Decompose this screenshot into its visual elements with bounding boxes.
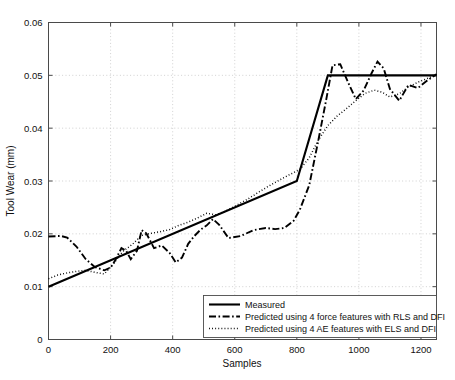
figure-container: 00.010.020.030.040.050.06 02004006008001… bbox=[0, 0, 455, 380]
y-tick-label-0: 0 bbox=[37, 334, 42, 345]
x-tick-label-3: 600 bbox=[227, 344, 243, 355]
y-tick-labels: 00.010.020.030.040.050.06 bbox=[24, 17, 43, 345]
y-tick-label-3: 0.03 bbox=[24, 176, 43, 187]
x-tick-labels: 020040060080010001200 bbox=[46, 344, 432, 355]
series-line-ae bbox=[49, 74, 437, 278]
y-tick-label-2: 0.02 bbox=[24, 228, 43, 239]
y-tick-label-6: 0.06 bbox=[24, 17, 43, 28]
legend-label-2: Predicted using 4 AE features with ELS a… bbox=[245, 324, 436, 334]
x-tick-label-2: 400 bbox=[165, 344, 181, 355]
x-tick-label-0: 0 bbox=[46, 344, 51, 355]
legend-label-1: Predicted using 4 force features with RL… bbox=[245, 312, 445, 322]
gridlines bbox=[49, 23, 437, 340]
y-tick-label-5: 0.05 bbox=[24, 70, 43, 81]
chart-plot: 00.010.020.030.040.050.06 02004006008001… bbox=[0, 0, 455, 380]
x-tick-label-6: 1200 bbox=[410, 344, 431, 355]
series-group bbox=[49, 62, 437, 287]
y-axis-title: Tool Wear (mm) bbox=[5, 146, 16, 217]
x-tick-label-4: 800 bbox=[289, 344, 305, 355]
x-tick-label-5: 1000 bbox=[348, 344, 369, 355]
legend: Measured Predicted using 4 force feature… bbox=[204, 296, 446, 338]
x-tick-label-1: 200 bbox=[103, 344, 119, 355]
y-tick-label-1: 0.01 bbox=[24, 281, 43, 292]
legend-label-0: Measured bbox=[245, 300, 285, 310]
x-axis-title: Samples bbox=[223, 358, 262, 369]
y-tick-label-4: 0.04 bbox=[24, 123, 43, 134]
series-line-force bbox=[49, 62, 437, 271]
